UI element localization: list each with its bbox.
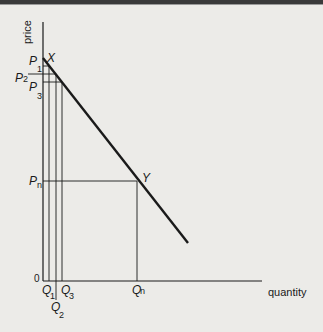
svg-text:P: P	[15, 71, 23, 85]
p2-label: P 2	[15, 71, 28, 85]
svg-text:P: P	[29, 80, 37, 94]
q3-label: Q 3	[61, 283, 74, 301]
svg-text:3: 3	[69, 291, 74, 301]
point-x-label: X	[46, 51, 56, 65]
svg-text:n: n	[37, 180, 42, 190]
p3-label: P 3	[29, 80, 42, 101]
q2-label: Q 2	[51, 300, 64, 320]
qn-label: Q n	[132, 283, 145, 297]
svg-text:P: P	[29, 54, 37, 68]
demand-line	[43, 58, 188, 243]
svg-text:3: 3	[37, 91, 42, 101]
q1-label: Q 1	[42, 283, 55, 301]
pn-label: P n	[29, 174, 42, 190]
svg-text:1: 1	[37, 64, 42, 74]
p1-label: P 1	[29, 54, 42, 74]
svg-text:2: 2	[23, 74, 28, 84]
y-axis-label: price	[21, 20, 33, 44]
svg-text:2: 2	[59, 310, 64, 320]
point-y-label: Y	[142, 171, 151, 185]
svg-text:n: n	[140, 286, 145, 296]
demand-diagram: price quantity 0 X Y P 1 P 2 P 3 P n Q 1…	[0, 0, 323, 332]
origin-label: 0	[34, 273, 40, 284]
x-axis-label: quantity	[268, 286, 307, 298]
svg-text:P: P	[29, 174, 37, 188]
